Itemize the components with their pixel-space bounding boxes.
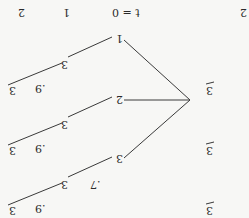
header-col-2a: 2 [18, 6, 25, 18]
mid-node-1: 3 [61, 58, 68, 70]
probability-tree-diagram: 2 1 t = 0 2 1 2 3 3 3 3 .7 3 .9 3 .9 3 .… [0, 0, 249, 218]
tree-edges [0, 0, 249, 218]
header-col-t0: t = 0 [112, 6, 140, 18]
edge-1-mid [68, 37, 112, 57]
right-label-2: 3 [206, 144, 213, 156]
mid-prob-3: .7 [90, 178, 101, 190]
leaf-prob-1: .9 [35, 82, 46, 94]
mid-node-2: 3 [61, 118, 68, 130]
edge-root-1 [124, 40, 190, 100]
leaf-node-2: 3 [9, 144, 16, 156]
branch-node-3: 3 [116, 152, 123, 164]
leaf-node-1: 3 [9, 84, 16, 96]
edge-3-mid [68, 157, 112, 177]
right-label-1: 3 [206, 84, 213, 96]
leaf-node-3: 3 [9, 204, 16, 216]
leaf-prob-3: .9 [35, 202, 46, 214]
edge-root-3 [124, 100, 190, 158]
edge-2-mid [68, 97, 112, 117]
branch-node-2: 2 [116, 93, 123, 105]
header-col-1: 1 [63, 6, 70, 18]
leaf-prob-2: .9 [35, 142, 46, 154]
header-col-2b: 2 [240, 6, 247, 18]
mid-node-3: 3 [61, 178, 68, 190]
right-label-3: 3 [206, 204, 213, 216]
branch-node-1: 1 [116, 32, 123, 44]
